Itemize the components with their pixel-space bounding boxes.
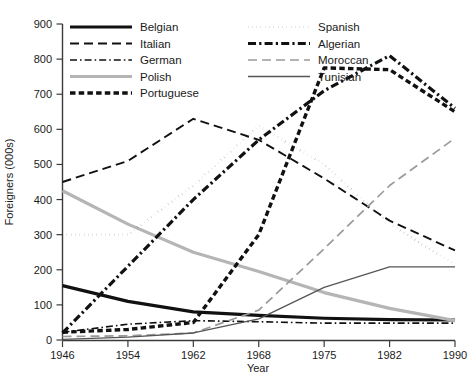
legend-label-italian: Italian [140,38,171,50]
legend-label-portuguese: Portuguese [140,87,199,99]
y-tick-label: 100 [34,299,52,311]
legend-label-spanish: Spanish [318,21,360,33]
series-line-portuguese [63,68,456,332]
x-tick-label: 1975 [312,349,336,361]
legend-label-algerian: Algerian [318,38,360,50]
series-line-german [63,321,456,333]
x-tick-label: 1954 [116,349,140,361]
chart-legend: BelgianItalianGermanPolishPortugueseSpan… [70,21,369,99]
y-tick-label: 400 [34,194,52,206]
series-line-tunisian [63,267,456,339]
y-tick-group: 0100200300400500600700800900 [34,18,63,346]
x-tick-label: 1968 [247,349,271,361]
series-line-algerian [63,56,456,333]
y-tick-label: 500 [34,158,52,170]
x-tick-label: 1982 [377,349,401,361]
y-tick-label: 800 [34,53,52,65]
y-tick-label: 600 [34,123,52,135]
x-axis-title: Year [247,362,270,374]
legend-label-german: German [140,54,182,66]
y-tick-label: 700 [34,88,52,100]
legend-label-polish: Polish [140,71,171,83]
x-tick-group: 1946195419621968197519821990 [50,341,467,362]
chart-figure: 0100200300400500600700800900 Foreigners … [0,0,475,378]
x-axis: 1946195419621968197519821990 Year [50,341,467,375]
x-tick-label: 1946 [50,349,74,361]
y-tick-label: 0 [46,334,52,346]
y-tick-label: 900 [34,18,52,30]
y-tick-label: 200 [34,264,52,276]
x-tick-label: 1990 [443,349,467,361]
x-tick-label: 1962 [181,349,205,361]
legend-label-tunisian: Tunisian [318,71,361,83]
line-chart-canvas: 0100200300400500600700800900 Foreigners … [0,0,475,378]
series-lines [63,56,456,340]
series-line-belgian [63,286,456,320]
legend-label-belgian: Belgian [140,21,178,33]
y-axis: 0100200300400500600700800900 Foreigners … [3,18,63,346]
y-axis-title: Foreigners (000s) [3,139,15,226]
y-tick-label: 300 [34,229,52,241]
legend-label-moroccan: Moroccan [318,54,369,66]
series-line-spanish [63,126,456,265]
